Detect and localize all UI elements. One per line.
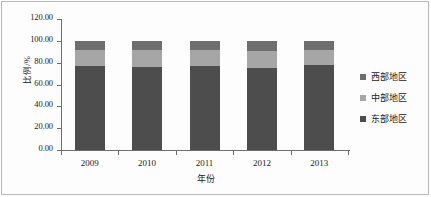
- legend-swatch-icon: [360, 116, 366, 122]
- bar-stack[interactable]: [247, 19, 277, 150]
- x-axis-tick-mark: [348, 151, 349, 155]
- bar-segment-东部地区[interactable]: [75, 66, 105, 150]
- bar-stack[interactable]: [190, 19, 220, 150]
- plot-area: [61, 19, 348, 150]
- bar-segment-东部地区[interactable]: [247, 68, 277, 150]
- legend-item-label: 东部地区: [371, 112, 407, 125]
- bar-stack[interactable]: [132, 19, 162, 150]
- chart-legend: 西部地区中部地区东部地区: [360, 66, 428, 129]
- y-axis-tick-label: 60.00: [34, 78, 53, 88]
- chart-figure: 0.0020.0040.0060.0080.00100.00120.00 比例/…: [0, 0, 431, 197]
- bar-segment-西部地区[interactable]: [132, 41, 162, 51]
- x-axis-tick-mark: [118, 151, 119, 155]
- x-axis-tick-label: 2011: [176, 158, 233, 168]
- x-axis-tick-mark: [176, 151, 177, 155]
- bar-segment-东部地区[interactable]: [190, 66, 220, 150]
- legend-item[interactable]: 中部地区: [360, 87, 428, 108]
- bar-segment-西部地区[interactable]: [304, 41, 334, 50]
- bar-segment-东部地区[interactable]: [304, 65, 334, 150]
- y-axis-tick-label: 120.00: [30, 12, 53, 22]
- y-axis-tick-label: 0.00: [39, 143, 53, 153]
- x-axis-title: 年份: [61, 172, 350, 185]
- bar-segment-中部地区[interactable]: [190, 50, 220, 66]
- legend-item-label: 西部地区: [371, 70, 407, 83]
- x-axis-tick-mark: [61, 151, 62, 155]
- y-axis-tick-label: 20.00: [34, 121, 53, 131]
- x-axis-line: [61, 150, 350, 151]
- legend-swatch-icon: [360, 95, 366, 101]
- bar-segment-西部地区[interactable]: [247, 41, 277, 51]
- bar-segment-东部地区[interactable]: [132, 67, 162, 150]
- bar-segment-中部地区[interactable]: [304, 50, 334, 65]
- x-axis-tick-label: 2013: [291, 158, 348, 168]
- x-axis-tick-mark: [233, 151, 234, 155]
- bar-stack[interactable]: [75, 19, 105, 150]
- bar-stack[interactable]: [304, 19, 334, 150]
- bar-segment-中部地区[interactable]: [75, 50, 105, 66]
- legend-item[interactable]: 西部地区: [360, 66, 428, 87]
- legend-item-label: 中部地区: [371, 91, 407, 104]
- legend-item[interactable]: 东部地区: [360, 108, 428, 129]
- bar-segment-中部地区[interactable]: [247, 51, 277, 68]
- x-axis-tick-mark: [291, 151, 292, 155]
- y-axis-tick-label: 100.00: [30, 34, 53, 44]
- y-axis-title: 比例/%: [20, 42, 32, 98]
- y-axis-tick-label: 80.00: [34, 56, 53, 66]
- legend-swatch-icon: [360, 74, 366, 80]
- y-axis-tick-label: 40.00: [34, 99, 53, 109]
- x-axis-tick-label: 2010: [118, 158, 175, 168]
- x-axis-tick-label: 2009: [61, 158, 118, 168]
- bar-segment-中部地区[interactable]: [132, 50, 162, 67]
- bar-segment-西部地区[interactable]: [190, 41, 220, 50]
- x-axis-tick-label: 2012: [233, 158, 290, 168]
- bar-segment-西部地区[interactable]: [75, 41, 105, 50]
